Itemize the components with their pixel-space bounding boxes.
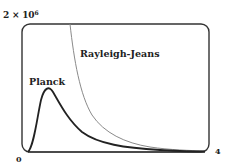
rayleigh-jeans-series-label: Rayleigh-Jeans [80,49,160,59]
x-axis-max-label: 4 [215,147,221,155]
rayleigh-jeans-curve [70,24,205,151]
planck-curve [28,88,205,152]
y-axis-max-label: 2 × 106 [3,10,38,20]
x-axis-zero-label: 0 [16,155,22,163]
y-axis-max-base: 2 × 10 [3,10,34,20]
y-axis-max-exponent: 6 [34,9,38,16]
planck-series-label: Planck [29,77,65,87]
